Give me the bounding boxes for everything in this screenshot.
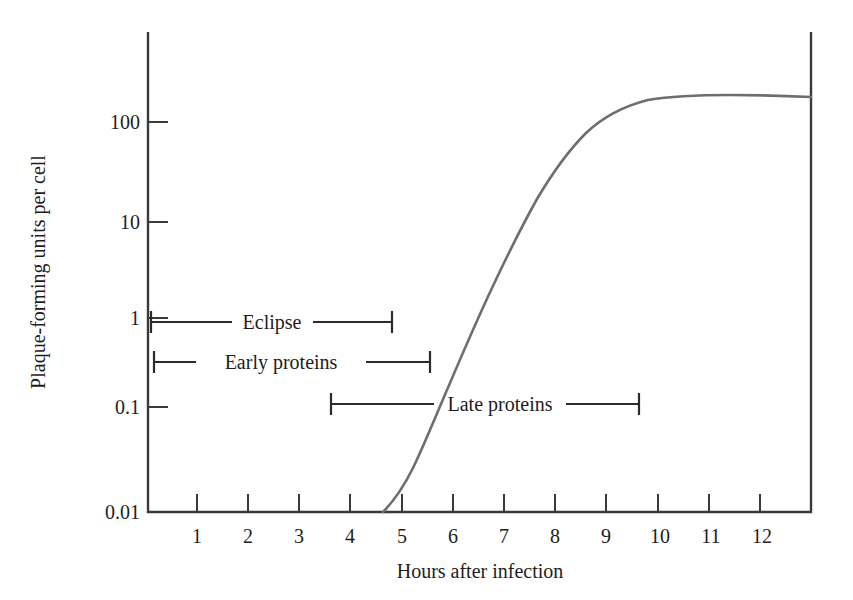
eclipse-label: Eclipse [243, 311, 302, 334]
x-tick-label-2: 2 [243, 525, 253, 547]
annotation-eclipse: Eclipse [151, 311, 392, 334]
x-tick-label-4: 4 [345, 525, 355, 547]
x-tick-label-5: 5 [397, 525, 407, 547]
x-tick-label-11: 11 [701, 525, 720, 547]
x-tick-label-7: 7 [499, 525, 509, 547]
y-tick-label-1: 1 [130, 307, 140, 329]
early-proteins-label: Early proteins [225, 351, 338, 374]
x-tick-label-10: 10 [650, 525, 670, 547]
y-axis-title: Plaque-forming units per cell [27, 155, 50, 389]
growth-curve-line [383, 95, 811, 512]
late-proteins-label: Late proteins [448, 393, 553, 416]
x-tick-label-8: 8 [550, 525, 560, 547]
x-tick-label-12: 12 [752, 525, 772, 547]
x-axis-title: Hours after infection [397, 560, 564, 582]
plot-frame [148, 32, 811, 512]
growth-curve-chart: 100 10 1 0.1 0.01 1 2 3 4 5 6 7 8 9 10 [0, 0, 853, 600]
y-tick-label-0.01: 0.01 [105, 501, 140, 523]
x-tick-label-3: 3 [294, 525, 304, 547]
annotation-early-proteins: Early proteins [154, 351, 430, 374]
y-tick-label-0.1: 0.1 [115, 396, 140, 418]
y-tick-label-100: 100 [110, 111, 140, 133]
y-tick-label-10: 10 [120, 211, 140, 233]
x-tick-label-1: 1 [192, 525, 202, 547]
chart-page: 100 10 1 0.1 0.01 1 2 3 4 5 6 7 8 9 10 [0, 0, 853, 600]
x-tick-label-6: 6 [448, 525, 458, 547]
x-tick-label-9: 9 [601, 525, 611, 547]
annotation-late-proteins: Late proteins [331, 393, 639, 416]
x-tick-group [197, 494, 760, 512]
